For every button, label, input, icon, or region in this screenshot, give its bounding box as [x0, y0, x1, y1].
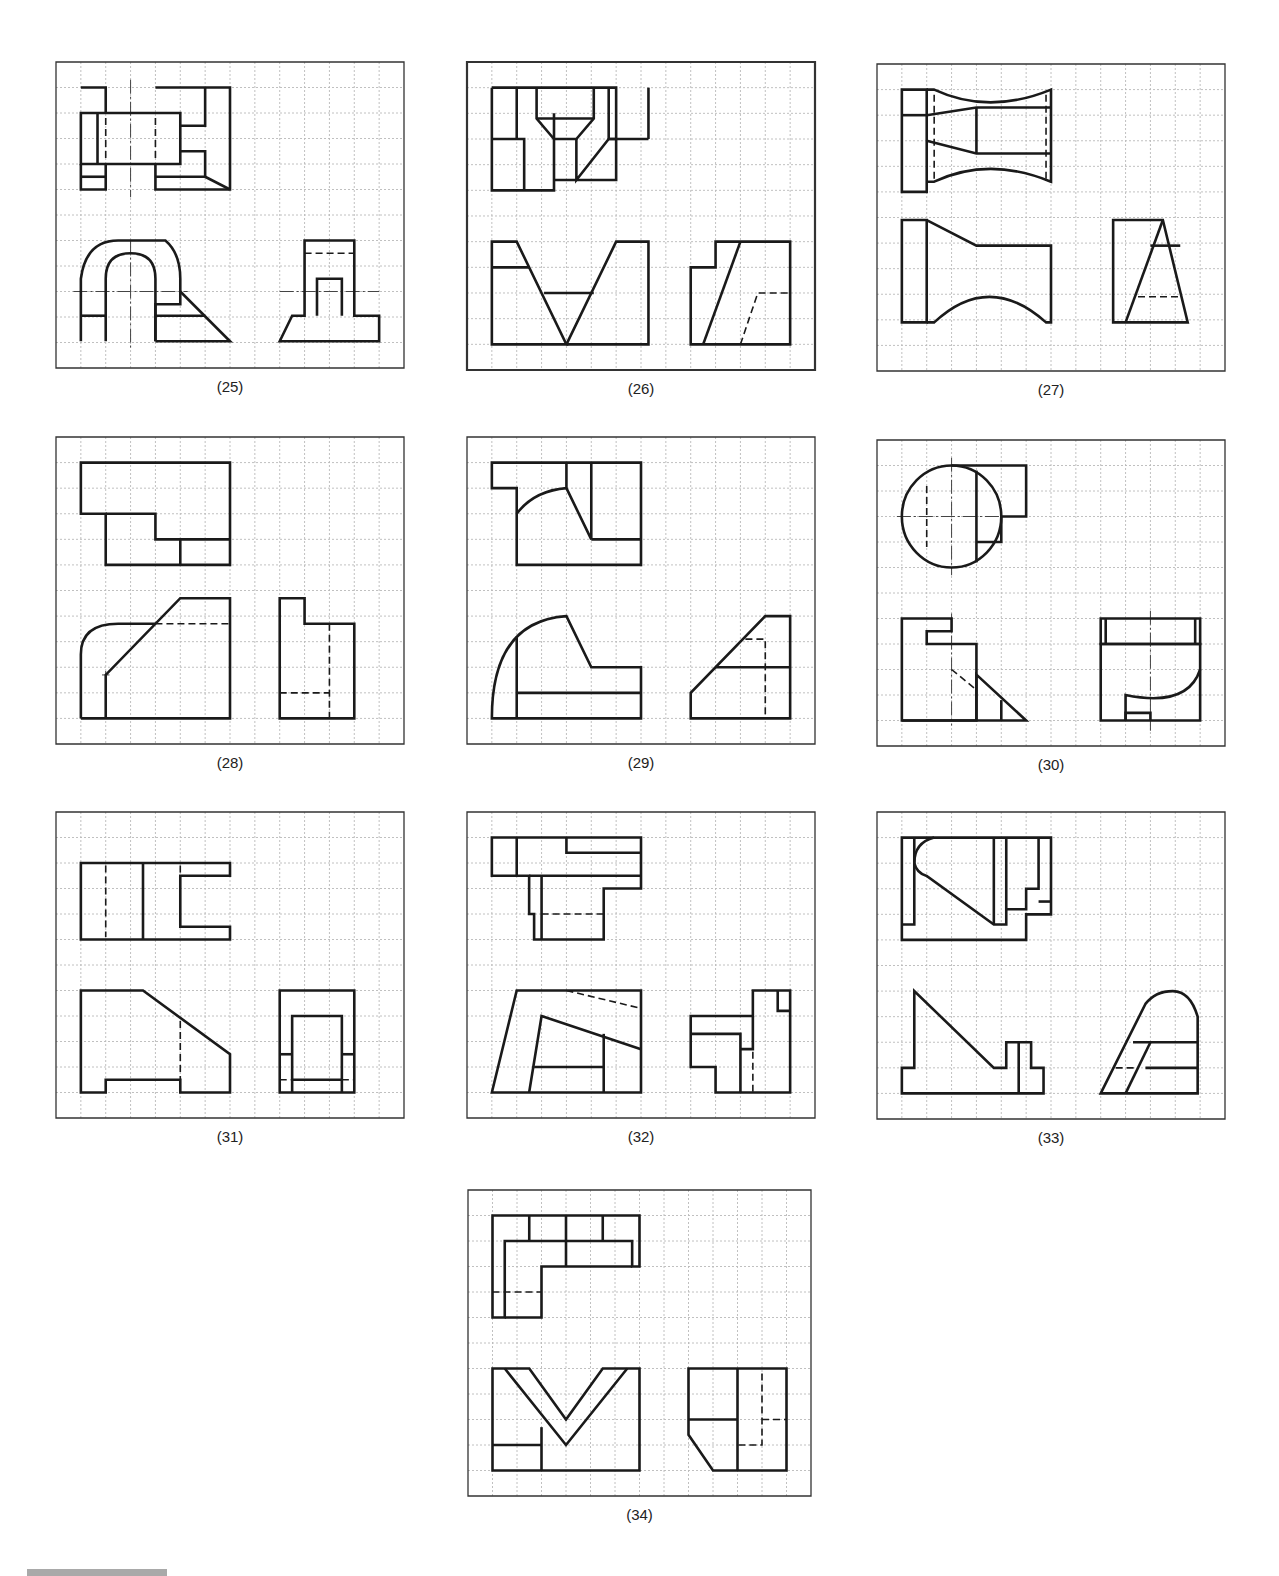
- figure-panel-29: [467, 437, 815, 744]
- figure-panel-33: [877, 812, 1225, 1119]
- orthographic-drawing: [877, 440, 1225, 746]
- figure-caption: (27): [991, 381, 1111, 398]
- figure-caption: (34): [580, 1506, 700, 1523]
- orthographic-drawing: [468, 1190, 811, 1496]
- grid-lines: [467, 62, 815, 370]
- hidden-edge: [738, 1374, 763, 1445]
- figure-panel-32: [467, 812, 815, 1118]
- visible-edge: [529, 1016, 641, 1093]
- orthographic-drawing: [467, 812, 815, 1118]
- figure-panel-27: [877, 64, 1225, 371]
- visible-edge: [902, 675, 1026, 721]
- visible-edge: [566, 463, 591, 540]
- hidden-edge: [745, 639, 765, 718]
- figure-caption: (30): [991, 756, 1111, 773]
- visible-edge: [902, 991, 1044, 1093]
- visible-edge: [1113, 220, 1188, 322]
- visible-edge: [537, 88, 594, 139]
- visible-edge: [566, 838, 641, 853]
- orthographic-drawing: [56, 437, 404, 744]
- visible-edge: [778, 991, 790, 1011]
- visible-edge: [1126, 220, 1163, 322]
- figure-panel-31: [56, 812, 404, 1118]
- hidden-edge: [566, 991, 641, 1009]
- visible-edge: [81, 88, 106, 114]
- figure-caption: (28): [170, 754, 290, 771]
- figure-caption: (32): [581, 1128, 701, 1145]
- orthographic-drawing: [877, 812, 1225, 1119]
- figure-panel-28: [56, 437, 404, 744]
- figure-caption: (29): [581, 754, 701, 771]
- figure-panel-26: [467, 62, 815, 370]
- visible-edge: [902, 838, 914, 925]
- visible-edge: [914, 838, 1006, 925]
- figure-panel-30: [877, 440, 1225, 746]
- visible-edge: [106, 514, 230, 540]
- visible-edge: [576, 139, 648, 180]
- figure-caption: (26): [581, 380, 701, 397]
- figure-caption: (25): [170, 378, 290, 395]
- visible-edge: [952, 466, 1027, 543]
- visible-edge: [927, 220, 1051, 322]
- figure-panel-25: [56, 62, 404, 368]
- figure-panel-34: [468, 1190, 811, 1496]
- visible-edge: [902, 220, 927, 322]
- visible-edge: [492, 616, 641, 718]
- page-edge-bar: [27, 1569, 167, 1576]
- orthographic-drawing: [56, 62, 404, 368]
- orthographic-drawing: [467, 62, 815, 370]
- visible-edge: [1006, 838, 1038, 910]
- visible-edge: [740, 1016, 752, 1049]
- visible-edge: [205, 177, 230, 190]
- orthographic-drawing: [467, 437, 815, 744]
- hidden-edge: [952, 670, 977, 690]
- visible-edge: [927, 141, 1051, 154]
- figure-caption: (31): [170, 1128, 290, 1145]
- visible-edge: [180, 88, 205, 126]
- visible-edge: [927, 107, 1051, 115]
- figure-caption: (33): [991, 1129, 1111, 1146]
- orthographic-drawing: [877, 64, 1225, 371]
- orthographic-drawing: [56, 812, 404, 1118]
- visible-edge: [81, 624, 156, 719]
- visible-edge: [927, 90, 1051, 182]
- grid-lines: [877, 440, 1225, 746]
